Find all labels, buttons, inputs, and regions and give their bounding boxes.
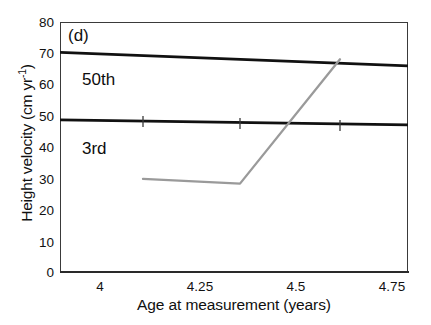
x-tick-label-425: 4.25 xyxy=(170,280,230,294)
chart-curves xyxy=(60,22,408,273)
figure-panel: Height velocity (cm yr-1) 80 70 60 50 40… xyxy=(0,0,431,325)
y-tick-label-60: 60 xyxy=(20,78,54,92)
y-tick-label-40: 40 xyxy=(20,141,54,155)
y-tick-label-0: 0 xyxy=(20,266,54,280)
y-tick-label-50: 50 xyxy=(20,110,54,124)
centile-line-3rd xyxy=(60,120,408,125)
y-axis-title-close: ) xyxy=(18,64,35,69)
y-tick-label-10: 10 xyxy=(20,236,54,250)
y-axis-title-exponent: -1 xyxy=(16,69,28,78)
y-tick-label-70: 70 xyxy=(20,47,54,61)
x-tick-label-475: 4.75 xyxy=(362,280,422,294)
x-tick-label-4: 4 xyxy=(70,280,130,294)
y-tick-label-20: 20 xyxy=(20,204,54,218)
y-tick-label-30: 30 xyxy=(20,173,54,187)
x-tick-label-45: 4.5 xyxy=(266,280,326,294)
x-axis-title: Age at measurement (years) xyxy=(60,296,408,314)
y-tick-label-80: 80 xyxy=(20,16,54,30)
centile-line-50th xyxy=(60,52,408,66)
